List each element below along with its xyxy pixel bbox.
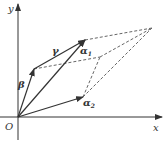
x-axis-label: x bbox=[153, 122, 159, 133]
vector-diagram: y x O γ β α1 α2 bbox=[0, 0, 166, 148]
dashed-line bbox=[83, 57, 100, 97]
dashed-line bbox=[83, 28, 152, 97]
y-axis-label: y bbox=[7, 3, 14, 14]
origin-label: O bbox=[5, 121, 13, 132]
label-alpha2: α2 bbox=[83, 97, 95, 109]
vector-beta bbox=[18, 69, 34, 117]
diagram-canvas: y x O γ β α1 α2 bbox=[0, 0, 166, 148]
label-gamma: γ bbox=[52, 45, 59, 56]
label-alpha1: α1 bbox=[80, 45, 92, 57]
vector-alpha2 bbox=[18, 97, 83, 117]
label-beta: β bbox=[17, 79, 25, 90]
